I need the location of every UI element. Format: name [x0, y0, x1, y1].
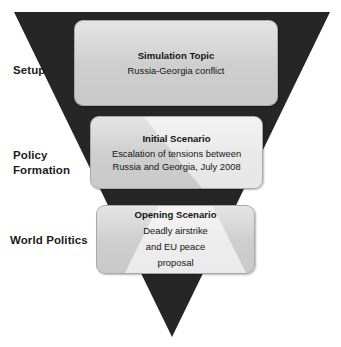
stage-label-policy-formation: Policy Formation — [13, 148, 93, 177]
scenario-box-title: Initial Scenario — [142, 133, 210, 145]
scenario-box-body: Escalation of tensions between Russia an… — [91, 147, 262, 173]
scenario-box-simulation-topic: Simulation Topic Russia-Georgia conflict — [74, 20, 278, 106]
funnel-diagram: Setup Policy Formation World Politics Si… — [0, 0, 341, 347]
scenario-box-title: Opening Scenario — [134, 209, 216, 221]
scenario-box-initial-scenario: Initial Scenario Escalation of tensions … — [90, 116, 263, 189]
scenario-box-title: Simulation Topic — [138, 50, 215, 62]
scenario-box-opening-scenario: Opening Scenario Deadly airstrike and EU… — [96, 205, 255, 274]
scenario-box-body: Russia-Georgia conflict — [121, 64, 232, 77]
stage-label-world-politics: World Politics — [10, 233, 110, 248]
scenario-box-body: Deadly airstrike and EU peace proposal — [136, 223, 215, 271]
